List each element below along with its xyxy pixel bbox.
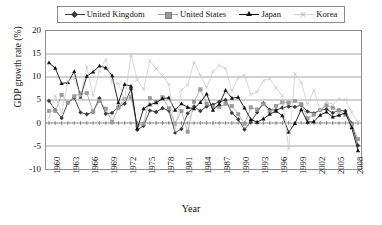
legend-item-united-states: United States	[158, 10, 226, 19]
y-axis-title: GDP growth rate (%)	[13, 5, 23, 129]
x-tick: 1981	[184, 157, 194, 174]
legend-label: Japan	[261, 10, 281, 19]
x-tick: 2002	[317, 157, 327, 174]
x-tick: 1984	[203, 157, 213, 174]
legend-item-united-kingdom: United Kingdom	[65, 10, 145, 19]
x-axis-ticks: 1960196319661969197219751978198119841987…	[45, 172, 362, 202]
x-tick: 1960	[52, 157, 62, 174]
x-tick: 1990	[241, 157, 251, 174]
y-tick: -10	[17, 165, 41, 174]
x-tick: 1972	[128, 157, 138, 174]
x-tick: 1999	[298, 157, 308, 174]
x-tick: 2005	[336, 157, 346, 174]
legend-item-japan: Japan	[239, 10, 281, 19]
y-tick: -5	[17, 142, 41, 151]
legend-item-korea: Korea	[294, 10, 337, 19]
diamond-marker-icon	[65, 10, 85, 19]
x-tick: 1996	[279, 157, 289, 174]
x-axis-title: Year	[0, 203, 382, 214]
x-tick: 1978	[166, 157, 176, 174]
x-tick: 1969	[109, 157, 119, 174]
x-tick: 1975	[147, 157, 157, 174]
x-tick: 1966	[90, 157, 100, 174]
triangle-marker-icon	[239, 10, 259, 19]
x-tick: 1993	[260, 157, 270, 174]
square-marker-icon	[158, 10, 178, 19]
legend-label: United Kingdom	[87, 10, 145, 19]
x-marker-icon	[294, 10, 314, 19]
legend-label: United States	[180, 10, 226, 19]
gdp-growth-chart: United Kingdom United States Japan Korea	[0, 0, 382, 225]
chart-legend: United Kingdom United States Japan Korea	[57, 6, 345, 23]
legend-label: Korea	[316, 10, 337, 19]
chart-canvas	[46, 31, 361, 169]
plot-area	[45, 30, 362, 170]
x-tick: 1987	[222, 157, 232, 174]
x-tick: 1963	[71, 157, 81, 174]
x-tick: 2008	[355, 157, 365, 174]
